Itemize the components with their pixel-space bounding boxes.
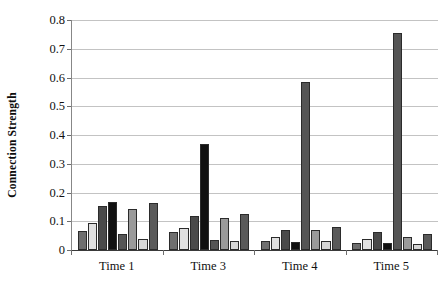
x-axis-tick-mark [254,250,255,255]
x-axis-tick-mark [163,250,164,255]
bar [281,230,290,250]
x-axis-tick-label: Time 1 [99,259,134,274]
plot-area: 00.10.20.30.40.50.60.70.8 [71,20,438,250]
bar [169,232,178,250]
bar [190,216,199,250]
bar [98,206,107,250]
bar [373,232,382,250]
bar [321,241,330,250]
y-axis-tick-label: 0.1 [49,214,65,229]
x-axis-tick-label: Time 4 [282,259,317,274]
bar [271,237,280,250]
y-axis-tick-label: 0 [59,243,65,258]
bar [423,234,432,250]
bar [179,228,188,250]
x-axis-tick-mark [437,250,438,255]
y-axis-tick-mark [67,49,71,50]
x-axis-tick-label: Time 5 [374,259,409,274]
bar [118,234,127,250]
y-axis-tick-mark [67,164,71,165]
bar-group [72,20,164,250]
y-axis-title: Connection Strength [0,0,24,290]
x-axis-tick-mark [346,250,347,255]
bar [352,243,361,250]
y-axis-tick-mark [67,193,71,194]
y-axis-tick-label: 0.3 [49,156,65,171]
bar [78,231,87,250]
bar [301,82,310,250]
bar [128,209,137,250]
y-axis-tick-label: 0.7 [49,41,65,56]
bar [88,223,97,250]
bar [383,243,392,250]
bar-chart-figure: Connection Strength 00.10.20.30.40.50.60… [0,0,448,290]
bar [311,230,320,250]
bar-group [255,20,347,250]
y-axis-tick-mark [67,106,71,107]
y-axis-tick-label: 0.5 [49,99,65,114]
bar [108,202,117,250]
bar [403,237,412,250]
bar [240,214,249,250]
bar [149,203,158,250]
x-axis-tick-label: Time 3 [191,259,226,274]
bar-group [164,20,256,250]
bar [332,227,341,250]
bar [138,239,147,251]
y-axis-tick-mark [67,20,71,21]
y-axis-tick-label: 0.2 [49,185,65,200]
y-axis-tick-label: 0.8 [49,13,65,28]
bar [210,240,219,250]
bar [291,242,300,250]
bar-group [347,20,439,250]
y-axis-tick-label: 0.6 [49,70,65,85]
bar [362,239,371,251]
bar [230,241,239,250]
y-axis-tick-mark [67,135,71,136]
bar [261,241,270,250]
bar [200,144,209,250]
y-axis-tick-label: 0.4 [49,128,65,143]
bar [393,33,402,250]
y-axis-tick-mark [67,221,71,222]
y-axis-tick-mark [67,78,71,79]
bar [220,218,229,250]
x-axis-tick-mark [71,250,72,255]
